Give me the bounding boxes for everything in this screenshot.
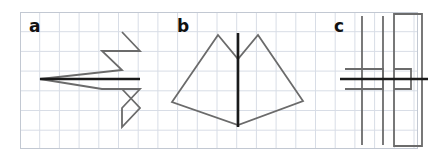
figure-container: abc — [0, 0, 444, 159]
figure-canvas: abc — [0, 0, 444, 159]
panel-label-c: c — [334, 16, 344, 36]
panel-label-a: a — [29, 16, 40, 36]
panel-label-b: b — [177, 16, 189, 36]
